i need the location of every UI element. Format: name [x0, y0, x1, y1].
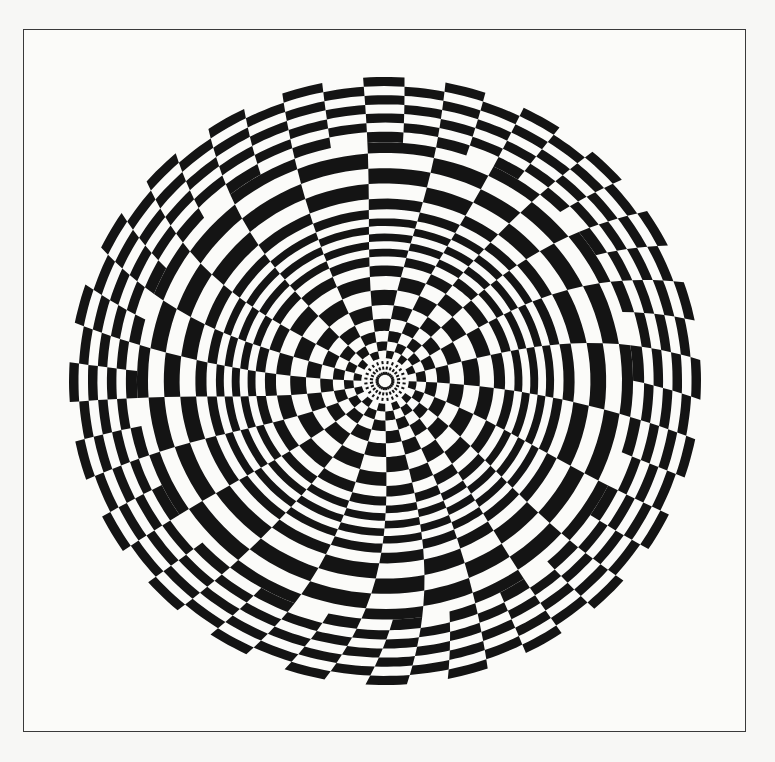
checker-cell — [377, 403, 386, 411]
center-dash — [368, 369, 371, 371]
checker-cell — [373, 319, 391, 332]
center-dash — [396, 395, 398, 397]
checker-cell — [69, 362, 79, 402]
checker-cell — [305, 184, 369, 214]
center-dash — [396, 365, 398, 367]
checker-cell — [353, 373, 362, 381]
checker-cell — [386, 351, 395, 360]
checker-cell — [635, 463, 659, 502]
checker-cell — [423, 188, 473, 216]
checker-cell — [422, 530, 457, 549]
checker-cell — [130, 459, 152, 494]
center-dash — [399, 369, 402, 371]
checker-cell — [115, 230, 139, 269]
checker-cell — [421, 440, 444, 463]
checker-cell — [349, 492, 386, 505]
checker-cell — [465, 544, 510, 578]
checker-cell — [346, 408, 364, 424]
checker-cell — [232, 367, 241, 396]
checker-cell — [149, 397, 175, 452]
checker-cell — [386, 502, 418, 513]
checker-cell — [95, 473, 119, 512]
checker-cell — [386, 455, 409, 473]
checker-cell — [75, 284, 94, 326]
checker-cell — [177, 263, 212, 317]
checker-cell — [273, 420, 299, 452]
checker-cell — [397, 277, 426, 296]
checker-cell — [358, 360, 369, 370]
checker-cell — [406, 338, 422, 353]
checker-cell — [265, 373, 277, 396]
checker-cell — [441, 342, 462, 365]
checker-cell — [294, 337, 316, 362]
checker-cell — [475, 119, 511, 141]
checker-cell — [290, 376, 307, 395]
checker-cell — [488, 318, 510, 353]
center-dash — [401, 373, 404, 374]
checker-cell — [292, 138, 331, 159]
checker-cell — [328, 123, 367, 137]
checker-cell — [424, 382, 437, 397]
checker-cell — [485, 636, 523, 659]
checker-cell — [453, 278, 479, 300]
checker-cell — [641, 383, 654, 423]
checker-cell — [405, 87, 445, 101]
checker-cell — [117, 398, 131, 430]
checker-cell — [253, 315, 272, 346]
checker-cell — [383, 637, 419, 648]
checker-cell — [331, 536, 383, 552]
checker-cell — [366, 114, 404, 124]
checker-cell — [408, 381, 417, 390]
checker-cell — [371, 290, 398, 306]
checker-cell — [324, 422, 350, 445]
checker-cell — [471, 420, 496, 453]
checker-cell — [641, 423, 659, 463]
center-dash — [387, 373, 388, 376]
checker-cell — [240, 341, 253, 370]
checker-cell — [394, 343, 406, 355]
checker-cell — [370, 266, 404, 278]
checker-cell — [404, 258, 436, 274]
checker-cell — [449, 407, 474, 436]
checker-cell — [331, 663, 375, 676]
checker-cell — [342, 646, 383, 658]
checker-cell — [391, 401, 400, 411]
center-dash — [392, 397, 393, 400]
checker-cell — [362, 606, 424, 620]
checker-cell — [306, 361, 322, 378]
checker-cell — [422, 337, 441, 355]
checker-cell — [364, 407, 377, 419]
checker-cell — [449, 641, 485, 660]
center-dash — [366, 373, 369, 374]
checker-cell — [473, 189, 520, 223]
checker-cell — [481, 102, 520, 125]
checker-cell — [611, 281, 635, 313]
checker-cell — [552, 290, 587, 344]
checker-cell — [111, 305, 127, 339]
checker-cell — [276, 353, 293, 376]
checker-cell — [440, 119, 476, 137]
checker-cell — [540, 244, 583, 290]
checker-cell — [356, 346, 370, 359]
checker-cell — [419, 622, 450, 637]
checker-cell — [658, 429, 677, 470]
checker-cell — [383, 532, 423, 544]
checker-cell — [320, 379, 334, 393]
checker-cell — [386, 430, 402, 444]
checker-cell — [316, 327, 339, 351]
checker-cell — [420, 355, 435, 370]
checker-cell — [338, 522, 385, 536]
checker-cell — [363, 77, 404, 87]
checker-cell — [290, 306, 319, 337]
checker-cell — [410, 419, 428, 437]
checker-cell — [397, 355, 407, 365]
checker-cell — [254, 641, 299, 662]
center-dash — [372, 365, 374, 367]
checker-cell — [289, 119, 329, 139]
checker-cell — [450, 623, 481, 641]
center-dash — [387, 387, 388, 390]
center-dash — [401, 388, 404, 389]
checker-cell — [634, 312, 651, 348]
checker-cell — [379, 549, 424, 564]
checker-cell — [441, 481, 467, 501]
